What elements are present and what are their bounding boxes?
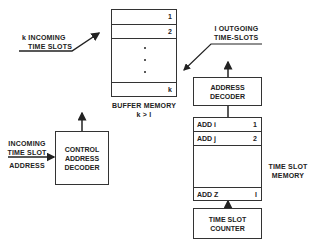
diagram-canvas: k INCOMING TIME SLOTS l OUTGOING TIME-SL… bbox=[0, 0, 313, 247]
tsm-row: ADD i 1 bbox=[194, 118, 261, 132]
time-slot-memory: ADD i 1 ADD j 2 ADD Z l bbox=[193, 117, 262, 201]
address-decoder: ADDRESS DECODER bbox=[193, 77, 262, 106]
outgoing-slots-label: l OUTGOING TIME-SLOTS bbox=[214, 24, 258, 42]
time-slot-counter: TIME SLOT COUNTER bbox=[193, 208, 262, 239]
ellipsis-dot bbox=[144, 47, 146, 49]
incoming-address-label: INCOMING TIME SLOT ADDRESS bbox=[2, 139, 52, 170]
control-address-decoder: CONTROL ADDRESS DECODER bbox=[55, 131, 109, 185]
buffer-memory: 1 2 k bbox=[111, 9, 177, 97]
time-slot-memory-label: TIME SLOT MEMORY bbox=[266, 162, 310, 180]
tsm-row: ADD j 2 bbox=[194, 132, 261, 146]
buffer-memory-label: BUFFER MEMORY k > l bbox=[106, 101, 182, 119]
tsm-row: ADD Z l bbox=[194, 187, 261, 201]
incoming-slots-label: k INCOMING TIME SLOTS bbox=[22, 33, 72, 51]
buffer-row: 2 bbox=[112, 25, 176, 39]
buffer-row: k bbox=[112, 82, 176, 97]
ellipsis-dot bbox=[144, 59, 146, 61]
buffer-row: 1 bbox=[112, 10, 176, 25]
ellipsis-dot bbox=[144, 71, 146, 73]
